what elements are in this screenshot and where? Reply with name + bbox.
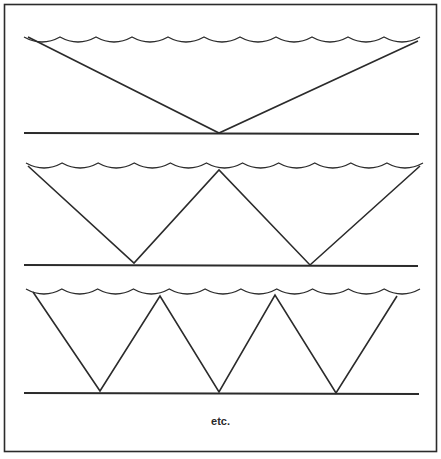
reflection-diagram bbox=[0, 0, 441, 459]
water-surface-wave bbox=[26, 163, 423, 168]
signal-bounce-path bbox=[28, 166, 420, 265]
panel-double-reflection bbox=[24, 163, 423, 266]
panel-triple-reflection bbox=[24, 289, 420, 394]
water-surface-wave bbox=[24, 37, 420, 42]
sea-floor-line bbox=[24, 393, 419, 394]
water-surface-wave bbox=[26, 289, 420, 294]
frame-border bbox=[5, 5, 437, 452]
signal-bounce-path bbox=[33, 292, 397, 393]
signal-bounce-path bbox=[28, 37, 418, 133]
sea-floor-line bbox=[24, 265, 418, 266]
etc-caption: etc. bbox=[0, 415, 441, 427]
sea-floor-line bbox=[24, 133, 419, 134]
panel-single-reflection bbox=[24, 37, 420, 134]
